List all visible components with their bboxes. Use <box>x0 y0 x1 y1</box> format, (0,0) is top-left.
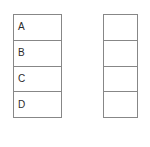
table-row[interactable] <box>104 92 137 117</box>
cell-label: A <box>14 22 25 32</box>
table-row[interactable]: D <box>14 92 61 117</box>
table-row[interactable] <box>104 41 137 67</box>
right-table <box>103 14 138 118</box>
table-row[interactable]: B <box>14 41 61 67</box>
table-row[interactable]: C <box>14 67 61 93</box>
table-row[interactable] <box>104 15 137 41</box>
left-table: A B C D <box>13 14 62 118</box>
table-row[interactable] <box>104 67 137 93</box>
cell-label: C <box>14 74 25 84</box>
cell-label: D <box>14 100 25 110</box>
cell-label: B <box>14 48 25 58</box>
diagram-canvas: A B C D <box>0 0 150 147</box>
table-row[interactable]: A <box>14 15 61 41</box>
